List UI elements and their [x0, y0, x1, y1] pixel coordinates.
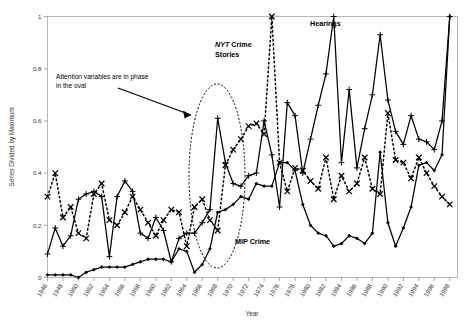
x-tick-label: 1976 — [267, 282, 281, 298]
annotation-line-2: in the oval — [56, 82, 87, 89]
x-tick-label: 1988 — [360, 282, 374, 298]
x-tick-label: 1982 — [314, 282, 328, 298]
y-tick-label: 0.4 — [33, 169, 42, 176]
x-tick-label: 1950 — [66, 282, 80, 298]
nyt-crime-stories-label-line2: Stories — [215, 50, 239, 59]
x-tick-label: 1956 — [112, 282, 126, 298]
x-tick-label: 1958 — [128, 282, 142, 298]
x-axis-ticks: 1946194819501952195419561958196019621964… — [35, 278, 451, 298]
x-tick-label: 1998 — [437, 282, 451, 298]
chart-figure: 00.20.40.60.81 1946194819501952195419561… — [0, 0, 474, 325]
y-tick-label: 0.6 — [33, 117, 42, 124]
x-tick-label: 1994 — [406, 282, 420, 298]
hearings-label: Hearings — [310, 19, 341, 28]
x-tick-label: 1954 — [97, 282, 111, 298]
nyt-italic: NYT — [215, 40, 230, 49]
nyt-rest: Crime — [229, 40, 251, 49]
y-tick-label: 0.2 — [33, 222, 42, 229]
x-tick-label: 1974 — [252, 282, 266, 298]
x-tick-label: 1980 — [298, 282, 312, 298]
x-tick-label: 1970 — [221, 282, 235, 298]
nyt-crime-stories-label: NYT Crime — [215, 40, 252, 49]
x-tick-label: 1978 — [283, 282, 297, 298]
x-tick-label: 1972 — [236, 282, 250, 298]
y-axis-ticks: 00.20.40.60.81 — [33, 13, 48, 281]
x-tick-label: 1986 — [345, 282, 359, 298]
x-tick-label: 1968 — [205, 282, 219, 298]
x-tick-label: 1946 — [35, 282, 49, 298]
y-tick-label: 0.8 — [33, 65, 42, 72]
x-tick-label: 1966 — [190, 282, 204, 298]
x-tick-label: 1962 — [159, 282, 173, 298]
x-tick-label: 1948 — [51, 282, 65, 298]
x-axis-title: Year — [246, 310, 260, 317]
annotation-line-1: Attention variables are in phase — [56, 73, 149, 81]
x-tick-label: 1952 — [82, 282, 96, 298]
mip-crime-label: MIP Crime — [235, 237, 270, 246]
x-tick-label: 1960 — [143, 282, 157, 298]
x-tick-label: 1990 — [375, 282, 389, 298]
x-tick-label: 1984 — [329, 282, 343, 298]
y-tick-label: 0 — [38, 274, 42, 281]
y-tick-label: 1 — [38, 13, 42, 20]
y-axis-title: Series Divided by Maximum — [8, 107, 16, 186]
x-tick-label: 1964 — [174, 282, 188, 298]
x-tick-label: 1996 — [422, 282, 436, 298]
x-tick-label: 1992 — [391, 282, 405, 298]
chart-svg: 00.20.40.60.81 1946194819501952195419561… — [0, 0, 474, 325]
